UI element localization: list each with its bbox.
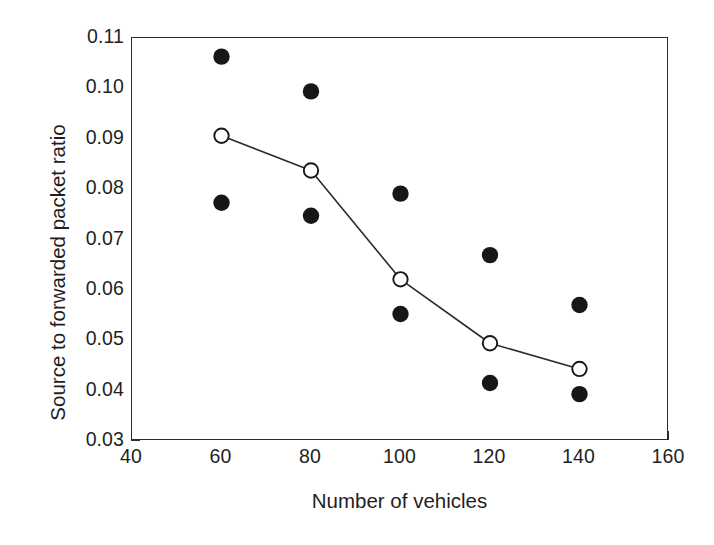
data-point-filled (213, 195, 229, 211)
y-axis-title: Source to forwarded packet ratio (43, 0, 73, 545)
data-point-open (572, 362, 586, 376)
data-point-filled (482, 375, 498, 391)
plot-area (131, 37, 668, 440)
x-axis-tick-label: 140 (544, 447, 614, 467)
data-point-open (393, 272, 407, 286)
data-point-filled (571, 386, 587, 402)
data-point-filled (482, 247, 498, 263)
data-point-open (483, 336, 497, 350)
x-axis-tick-label: 100 (365, 447, 435, 467)
x-axis-tick-label: 120 (454, 447, 524, 467)
data-point-filled (392, 306, 408, 322)
x-axis-title: Number of vehicles (131, 489, 668, 513)
data-point-filled (392, 185, 408, 201)
data-point-open (304, 163, 318, 177)
x-axis-tick-label: 40 (96, 447, 166, 467)
plot-canvas (132, 38, 669, 441)
x-axis-tick-label: 60 (186, 447, 256, 467)
chart-figure: 0.030.040.050.060.070.080.090.100.11 406… (0, 0, 714, 545)
data-point-filled (303, 83, 319, 99)
series-line (222, 136, 580, 369)
x-axis-tick-label: 160 (633, 447, 703, 467)
data-point-open (214, 129, 228, 143)
data-point-filled (213, 48, 229, 64)
x-axis-tick-label: 80 (275, 447, 345, 467)
data-point-filled (571, 297, 587, 313)
data-point-filled (303, 208, 319, 224)
